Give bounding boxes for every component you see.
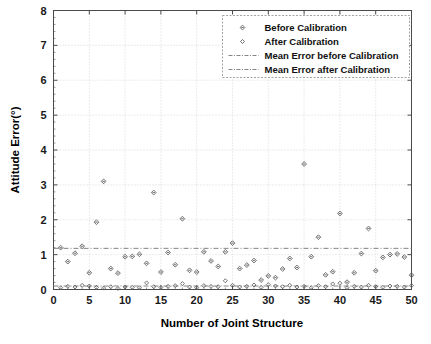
data-point-after [259,285,263,289]
y-tick-label: 2 [40,214,46,226]
legend-label: Mean Error before Calibration [265,50,399,61]
data-point-after [367,283,371,287]
data-point-after [331,282,335,286]
x-tick-label: 10 [119,294,131,306]
data-point-after [359,285,363,289]
x-tick-label: 0 [50,294,56,306]
data-point-after [180,282,184,286]
legend-label: After Calibration [265,36,340,47]
scatter-plot: 05101520253035404550012345678 Number of … [0,0,431,344]
y-tick-label: 3 [40,179,46,191]
x-tick-label: 25 [226,294,238,306]
data-point-after [388,284,392,288]
x-tick-label: 15 [155,294,167,306]
y-tick-label: 6 [40,74,46,86]
x-tick-label: 45 [370,294,382,306]
data-point-after [281,285,285,289]
data-point-after [80,283,84,287]
data-point-after [109,285,113,289]
chart-legend: Before CalibrationAfter CalibrationMean … [223,16,410,78]
y-tick-label: 1 [40,249,46,261]
y-tick-label: 5 [40,109,46,121]
x-tick-label: 40 [334,294,346,306]
data-point-after [324,285,328,289]
y-axis-title: Attitude Error(°) [9,106,21,193]
data-point-after [223,279,227,283]
y-tick-label: 7 [40,39,46,51]
series-after-calibration [59,279,414,291]
data-point-after [231,283,235,287]
x-tick-label: 50 [405,294,417,306]
legend-label: Mean Error after Calibration [265,64,391,75]
x-tick-label: 30 [262,294,274,306]
x-tick-label: 5 [86,294,92,306]
y-tick-label: 0 [40,284,46,296]
x-axis-title: Number of Joint Structure [161,317,303,329]
y-tick-label: 4 [40,144,47,156]
x-tick-label: 20 [191,294,203,306]
data-point-after [216,285,220,289]
legend-label: Before Calibration [265,22,348,33]
series-before-calibration [58,162,414,285]
chart-figure: 05101520253035404550012345678 Number of … [0,0,431,344]
data-point-after [152,285,156,289]
data-point-after [145,281,149,285]
data-point-after [338,281,342,285]
x-tick-label: 35 [298,294,310,306]
y-tick-label: 8 [40,5,46,17]
data-point-after [288,283,292,287]
